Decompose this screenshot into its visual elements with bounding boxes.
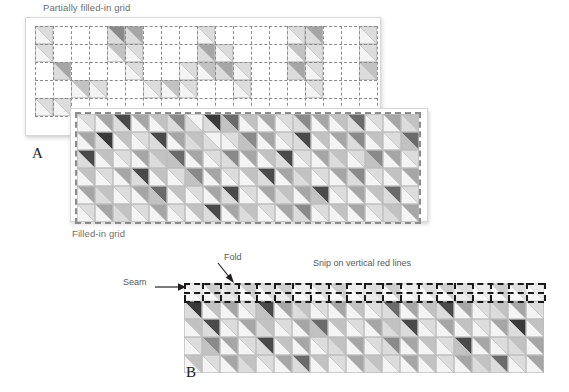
dashed-gridline-vertical (197, 26, 198, 116)
annotation-seam: Seam (123, 277, 147, 287)
dashed-gridline-horizontal (35, 98, 377, 99)
dashed-gridline-vertical (53, 26, 54, 116)
figure-root: Partially filled-in grid A Filled-in gri… (0, 0, 569, 392)
seam-arrow-icon (155, 280, 187, 294)
snip-line-vertical (328, 283, 330, 301)
dashed-gridline-vertical (341, 26, 342, 116)
snip-line-vertical (400, 283, 402, 301)
snip-line-vertical (256, 283, 258, 301)
snip-line-vertical (472, 283, 474, 301)
dashed-gridline-vertical (35, 26, 36, 116)
dashed-gridline-vertical (287, 26, 288, 116)
dashed-gridline-vertical (269, 26, 270, 116)
snip-line-vertical (202, 283, 204, 301)
dashed-gridline-horizontal (35, 62, 377, 63)
annotation-fold: Fold (224, 252, 242, 262)
snip-line-vertical (220, 283, 222, 301)
snip-line-vertical (292, 283, 294, 301)
snip-line-vertical (310, 283, 312, 301)
panel-letter-b: B (186, 364, 196, 381)
caption-partially-filled-grid: Partially filled-in grid (43, 2, 130, 13)
dashed-gridline-vertical (215, 26, 216, 116)
filled-in-grid-card (70, 108, 428, 222)
snip-line-vertical (490, 283, 492, 301)
dashed-gridline-vertical (359, 26, 360, 116)
dashed-gridline-horizontal (35, 26, 377, 27)
dashed-gridline-vertical (323, 26, 324, 116)
caption-filled-in-grid: Filled-in grid (72, 228, 125, 239)
annotation-snip: Snip on vertical red lines (313, 258, 411, 268)
dashed-gridline-vertical (161, 26, 162, 116)
panel-letter-a: A (32, 145, 43, 162)
snip-line-vertical (508, 283, 510, 301)
dashed-gridline-vertical (251, 26, 252, 116)
filled-grid-dashed-border (71, 109, 427, 221)
snip-line-vertical (454, 283, 456, 301)
strip-seam-fold-overlay (184, 283, 544, 373)
snip-line-vertical (238, 283, 240, 301)
filled-grid-dashed-outline (75, 112, 421, 224)
snip-line-vertical (436, 283, 438, 301)
dashed-gridline-vertical (377, 26, 378, 116)
fold-arrow-icon (216, 262, 236, 284)
dashed-gridline-vertical (143, 26, 144, 116)
dashed-gridline-horizontal (35, 80, 377, 81)
dashed-gridline-vertical (125, 26, 126, 116)
seam-base-line (184, 301, 544, 303)
dashed-gridline-vertical (305, 26, 306, 116)
snip-line-vertical (274, 283, 276, 301)
snip-line-vertical (544, 283, 546, 301)
dashed-gridline-vertical (107, 26, 108, 116)
snip-line-vertical (418, 283, 420, 301)
dashed-gridline-vertical (89, 26, 90, 116)
snip-line-vertical (364, 283, 366, 301)
dashed-gridline-vertical (179, 26, 180, 116)
dashed-gridline-horizontal (35, 44, 377, 45)
dashed-gridline-vertical (71, 26, 72, 116)
snip-line-vertical (526, 283, 528, 301)
snip-line-vertical (346, 283, 348, 301)
strip-panel (184, 283, 544, 373)
dashed-gridline-vertical (233, 26, 234, 116)
snip-line-vertical (382, 283, 384, 301)
